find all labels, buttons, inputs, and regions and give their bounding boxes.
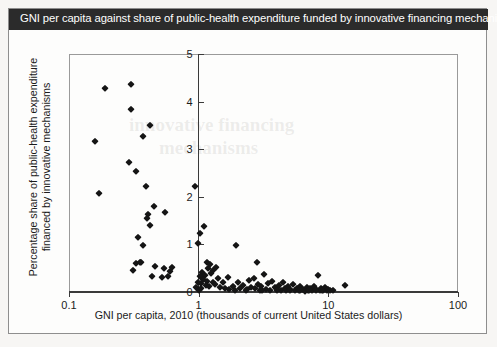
x-axis-title: GNI per capita, 2010 (thousands of curre…: [9, 309, 488, 321]
y-tick-mark: [199, 102, 204, 103]
x-tick-mark: [458, 292, 459, 297]
y-tick-mark: [199, 197, 204, 198]
y-tick-label: 4: [173, 96, 193, 108]
y-tick-mark: [199, 149, 204, 150]
y-tick-mark: [199, 54, 204, 55]
y-tick-label: 1: [173, 238, 193, 250]
y-tick-label: 2: [173, 191, 193, 203]
y-axis-line: [198, 54, 199, 292]
chart-title-bar: GNI per capita against share of public-h…: [9, 9, 488, 30]
figure-container: GNI per capita against share of public-h…: [8, 8, 487, 334]
x-tick-mark: [69, 292, 70, 297]
chart-title: GNI per capita against share of public-h…: [20, 12, 497, 24]
plot-frame: [69, 54, 458, 292]
y-axis-title: Percentage share of public-health expend…: [27, 52, 53, 282]
y-tick-label: 0: [173, 286, 193, 298]
y-tick-label: 5: [173, 48, 193, 60]
y-tick-label: 3: [173, 143, 193, 155]
